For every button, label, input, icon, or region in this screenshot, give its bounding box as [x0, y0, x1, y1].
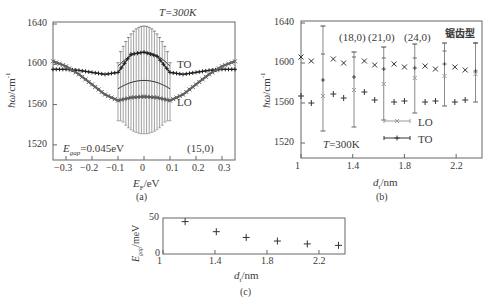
panel-b-xlabel: dt/nm [373, 176, 398, 191]
panel-c-caption: (c) [240, 286, 251, 297]
panel-a-caption: (a) [136, 191, 147, 202]
panel-b-caption: (b) [376, 191, 388, 202]
panel-c-xtick: 1.4 [209, 255, 222, 266]
panel-a-xtick: 0.2 [192, 162, 205, 173]
panel-a-temperature: T=300K [159, 6, 196, 18]
panel-b-ytick: 1560 [274, 96, 294, 107]
panel-a-ytick: 1600 [27, 57, 47, 68]
panel-a-xtick: −0.2 [80, 162, 98, 173]
panel-a-ylabel: ħω/cm-1 [4, 72, 17, 108]
panel-b-xtick: 2.2 [450, 160, 463, 171]
panel-c-xtick: 1.8 [261, 255, 274, 266]
panel-a-xtick: 0.3 [218, 162, 231, 173]
panel-c-xlabel: dt/nm [234, 269, 259, 284]
panel-a-ytick: 1560 [27, 98, 47, 109]
panel-a-xtick: 0 [140, 162, 145, 173]
panel-c-xtick: 1 [157, 255, 162, 266]
panel-a-xtick: 0.1 [166, 162, 179, 173]
panel-b-tube-label-21: (21,0) [368, 31, 395, 43]
panel-a-label-lo: LO [177, 96, 192, 108]
panel-a-xlabel: EF/eV [133, 177, 160, 192]
panel-b-legend-lo: LO [418, 116, 433, 128]
panel-b-xtick: 1 [295, 160, 300, 171]
panel-b-tube-label-18: (18,0) [339, 31, 366, 43]
panel-a-label-to: TO [177, 58, 191, 70]
panel-a-xtick: −0.1 [106, 162, 124, 173]
panel-b-ytick: 1640 [274, 16, 294, 27]
panel-b-xtick: 1.4 [347, 160, 360, 171]
panel-a-gap-annotation: Egap=0.045eV [63, 142, 124, 157]
panel-c-ylabel: Egap/meV [130, 225, 143, 262]
panel-b-ytick: 1520 [274, 136, 294, 147]
panel-b-legend-to: TO [418, 133, 432, 145]
panel-c-plot [163, 218, 345, 254]
panel-a-tube-label: (15,0) [187, 142, 214, 154]
panel-b-xtick: 1.8 [398, 160, 411, 171]
panel-b-ytick: 1600 [274, 56, 294, 67]
panel-a-ytick: 1520 [27, 138, 47, 149]
panel-c-xtick: 2.2 [313, 255, 326, 266]
panel-a-ytick: 1640 [27, 17, 47, 28]
panel-a-xtick: −0.3 [54, 162, 72, 173]
panel-b-ylabel: ħω/cm-1 [259, 72, 272, 108]
panel-b-tube-label-24: (24,0) [404, 31, 431, 43]
panel-a-plot [51, 22, 237, 160]
panel-b-temperature: T=300K [323, 138, 360, 150]
panel-b-type-label: 锯齿型 [445, 25, 475, 40]
panel-c-ytick: 50 [149, 211, 159, 222]
